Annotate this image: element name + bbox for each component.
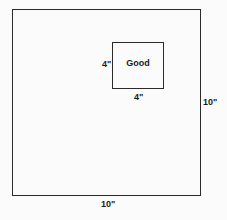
inner-width-label: 4" (134, 92, 143, 102)
inner-square-label: Good (126, 58, 150, 68)
outer-width-label: 10" (101, 199, 115, 209)
outer-square (12, 9, 201, 196)
outer-height-label: 10" (203, 97, 217, 107)
inner-square: Good (112, 42, 164, 89)
inner-height-label: 4" (102, 59, 111, 69)
